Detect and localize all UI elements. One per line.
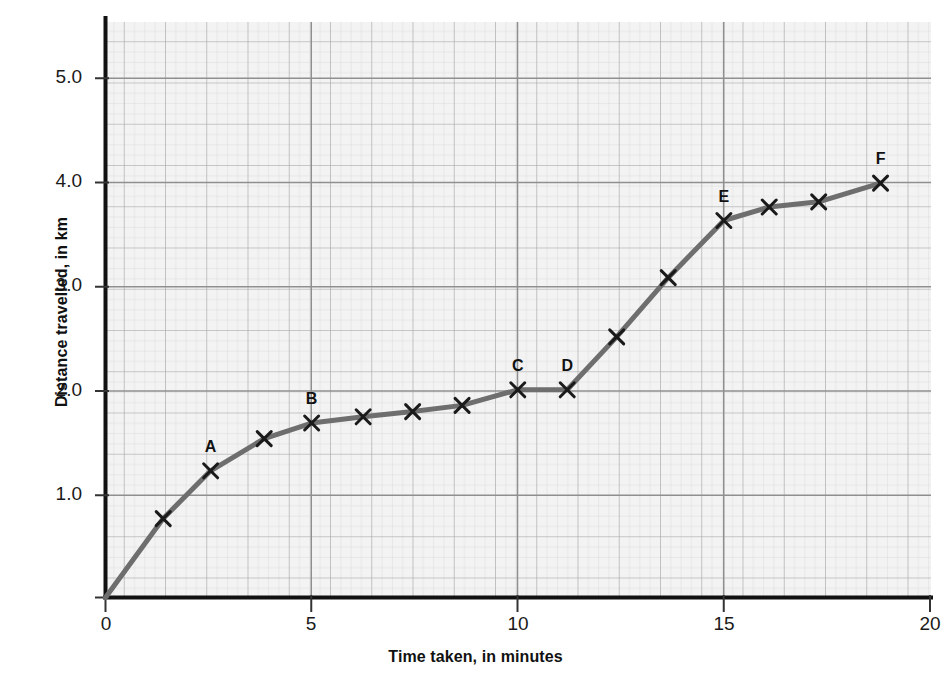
x-tick-label-20: 20 <box>905 613 951 635</box>
distance-time-graph: 5.0 4.0 3.0 2.0 1.0 0 5 10 15 20 Time ta… <box>0 0 951 674</box>
point-label-b: B <box>302 390 322 408</box>
x-axis-title: Time taken, in minutes <box>0 648 951 666</box>
x-tick-label-0: 0 <box>81 613 131 635</box>
point-label-a: A <box>201 438 221 456</box>
x-tick-label-15: 15 <box>699 613 749 635</box>
y-axis-title: Distance travelled, in km <box>53 217 71 407</box>
x-tick-label-10: 10 <box>493 613 543 635</box>
plot-area <box>0 0 951 674</box>
y-axis-title-wrapper: Distance travelled, in km <box>53 102 77 522</box>
y-tick-label-5: 5.0 <box>22 66 82 88</box>
point-label-d: D <box>557 357 577 375</box>
x-tick-label-5: 5 <box>286 613 336 635</box>
point-label-c: C <box>508 357 528 375</box>
point-label-f: F <box>871 150 891 168</box>
point-label-e: E <box>714 188 734 206</box>
